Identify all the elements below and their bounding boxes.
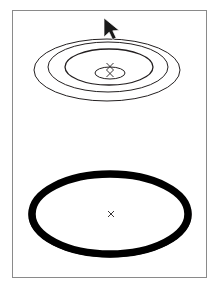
- arrow-pointer-cursor[interactable]: [104, 18, 119, 40]
- top-center-marker: [107, 63, 114, 77]
- drawing-surface[interactable]: [0, 0, 218, 290]
- bottom-object-group[interactable]: [29, 173, 191, 257]
- top-object-group[interactable]: [34, 39, 180, 101]
- bottom-ring-thick[interactable]: [32, 174, 188, 254]
- bottom-center-marker: [108, 211, 114, 217]
